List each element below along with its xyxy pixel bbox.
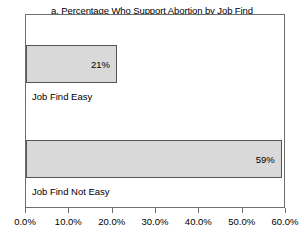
x-axis-tick-label: 30.0% — [142, 216, 169, 227]
x-axis-ticks — [25, 208, 285, 214]
x-axis-tick-label: 40.0% — [185, 216, 212, 227]
category-label-job-find-not-easy: Job Find Not Easy — [32, 186, 110, 197]
x-axis-tick-label: 20.0% — [98, 216, 125, 227]
x-axis-tick — [155, 208, 156, 213]
x-axis-tick — [198, 208, 199, 213]
x-axis-tick — [25, 208, 26, 213]
bar-chart: a. Percentage Who Support Abortion by Jo… — [0, 0, 304, 246]
bar-job-find-easy: 21% — [26, 45, 117, 83]
x-axis-tick-labels: 0.0%10.0%20.0%30.0%40.0%50.0%60.0% — [0, 216, 304, 232]
x-axis-tick-label: 50.0% — [228, 216, 255, 227]
x-axis-tick — [242, 208, 243, 213]
x-axis-tick — [112, 208, 113, 213]
x-axis-tick — [285, 208, 286, 213]
x-axis-tick-label: 60.0% — [272, 216, 299, 227]
x-axis-tick — [68, 208, 69, 213]
x-axis-tick-label: 10.0% — [55, 216, 82, 227]
bar-job-find-not-easy: 59% — [26, 140, 282, 178]
category-label-job-find-easy: Job Find Easy — [32, 91, 92, 102]
plot-area: 21% Job Find Easy 59% Job Find Not Easy — [25, 14, 285, 208]
bar-value-job-find-not-easy: 59% — [256, 154, 281, 165]
x-axis-tick-label: 0.0% — [14, 216, 36, 227]
bar-value-job-find-easy: 21% — [91, 59, 116, 70]
